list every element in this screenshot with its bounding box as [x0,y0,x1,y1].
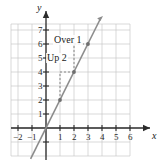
y-tick-label-5: 5 [38,54,43,63]
x-tick-label-3: 3 [86,133,91,142]
graph-canvas [0,0,168,165]
y-tick-label-6: 6 [38,40,43,49]
y-tick-label-3: 3 [38,82,43,91]
annotation-over-1: Over 1 [53,35,83,45]
x-tick-label-1: 1 [58,133,63,142]
x-tick-label-4: 4 [100,133,105,142]
coordinate-plane-figure: −2 −1 1 2 3 4 5 6 1 2 3 4 5 6 7 x y Over… [0,0,168,165]
y-tick-label-4: 4 [38,68,43,77]
y-axis-label: y [37,3,41,13]
x-axis [11,125,150,131]
x-tick-label-2: 2 [72,133,77,142]
annotation-up-2: Up 2 [46,53,68,63]
x-tick-label-5: 5 [114,133,119,142]
x-axis-label: x [152,131,156,141]
x-tick-label--2: −2 [13,133,23,142]
y-axis [43,11,49,160]
x-tick-label-6: 6 [128,133,133,142]
y-tick-label-1: 1 [38,110,43,119]
y-tick-label-7: 7 [38,26,43,35]
x-tick-label--1: −1 [27,133,37,142]
y-tick-label-2: 2 [38,96,43,105]
